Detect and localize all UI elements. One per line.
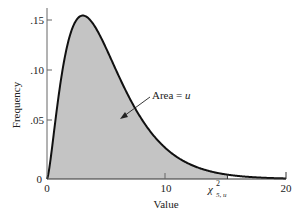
- critical-value-sub: 5, u: [216, 191, 227, 199]
- x-tick-label: 20: [281, 182, 293, 194]
- critical-value-label: χ: [207, 183, 214, 195]
- y-axis-title: Frequency: [10, 81, 22, 128]
- area-annotation: Area = u: [152, 89, 191, 101]
- x-tick-label: 10: [161, 182, 173, 194]
- y-tick-label: .05: [30, 114, 44, 126]
- chi-square-chart: .15 .10 .05 0 0 10 20 χ 2 5, u Value Fre…: [0, 0, 308, 219]
- critical-value-sup: 2: [216, 179, 220, 188]
- shaded-area: [47, 16, 227, 179]
- y-tick-label: .10: [30, 64, 44, 76]
- y-tick-label: .15: [30, 14, 44, 26]
- x-axis-title: Value: [153, 198, 178, 210]
- x-tick-label: 0: [44, 182, 50, 194]
- y-tick-label: 0: [37, 173, 43, 185]
